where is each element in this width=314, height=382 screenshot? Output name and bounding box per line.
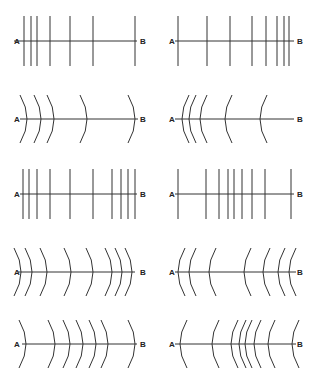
panel-r2-right: AB xyxy=(169,95,303,143)
label-b: B xyxy=(297,340,303,349)
panel-r4-right: AB xyxy=(169,248,303,296)
label-b: B xyxy=(297,268,303,277)
panel-r1-left: AB xyxy=(14,16,146,66)
label-b: B xyxy=(140,37,146,46)
label-a: A xyxy=(169,190,175,199)
panel-r1-right: AB xyxy=(169,16,303,66)
label-b: B xyxy=(140,340,146,349)
panel-r4-left: AB xyxy=(14,248,146,296)
label-a: A xyxy=(169,37,175,46)
label-a: A xyxy=(14,37,20,46)
panel-r5-right: AB xyxy=(169,320,303,368)
label-a: A xyxy=(169,340,175,349)
label-b: B xyxy=(297,190,303,199)
label-b: B xyxy=(140,190,146,199)
panel-r3-left: AB xyxy=(14,169,146,219)
label-b: B xyxy=(297,115,303,124)
label-b: B xyxy=(297,37,303,46)
panel-r2-left: AB xyxy=(14,95,146,143)
wavefront-diagram: ABABABABABABABABABAB xyxy=(0,0,314,382)
label-a: A xyxy=(169,268,175,277)
panel-r5-left: AB xyxy=(14,320,146,368)
panel-r3-right: AB xyxy=(169,169,303,219)
label-b: B xyxy=(140,268,146,277)
label-a: A xyxy=(14,268,20,277)
label-a: A xyxy=(14,115,20,124)
label-a: A xyxy=(14,340,20,349)
label-a: A xyxy=(169,115,175,124)
label-a: A xyxy=(14,190,20,199)
label-b: B xyxy=(140,115,146,124)
